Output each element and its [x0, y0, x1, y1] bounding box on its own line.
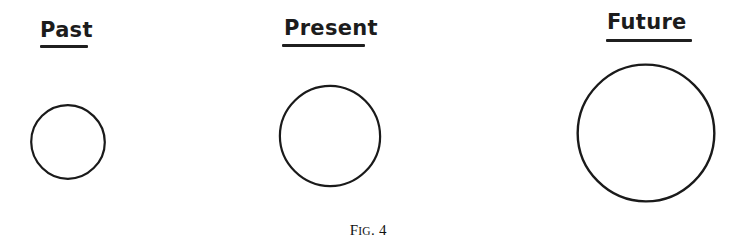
caption-number: 4 — [379, 222, 387, 238]
circle-past — [28, 102, 108, 182]
label-underline-future — [606, 39, 692, 42]
caption-small-caps: IG — [358, 225, 371, 237]
caption-period: . — [371, 222, 375, 238]
circle-present — [276, 82, 384, 190]
caption-prefix: F — [350, 222, 359, 238]
label-past: Past — [40, 20, 93, 41]
label-future: Future — [607, 12, 687, 33]
label-underline-past — [40, 45, 88, 48]
figure-4: Past Present Future FIG.4 — [0, 0, 736, 245]
figure-caption: FIG.4 — [0, 222, 736, 238]
label-underline-present — [282, 44, 365, 47]
circle-future — [573, 60, 719, 206]
label-present: Present — [284, 18, 378, 39]
